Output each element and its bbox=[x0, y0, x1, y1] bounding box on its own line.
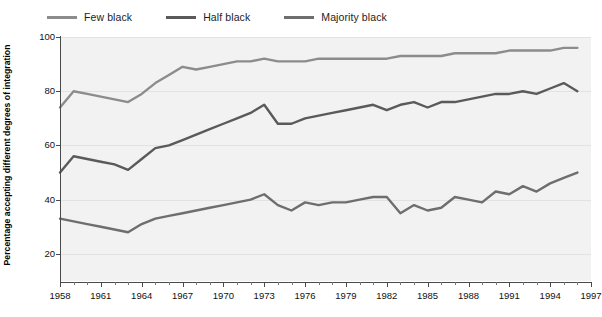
x-axis-tick-mark bbox=[591, 282, 592, 287]
x-axis-tick-label: 1967 bbox=[172, 290, 193, 301]
x-axis-tick-mark bbox=[183, 282, 184, 287]
y-axis-tick-label: 20 bbox=[30, 248, 55, 259]
x-axis-tick-label: 1988 bbox=[458, 290, 479, 301]
y-axis-title-text: Percentage accepting different degrees o… bbox=[2, 45, 12, 266]
y-axis-tick-mark bbox=[56, 145, 60, 146]
x-axis-minor-tick-mark bbox=[564, 282, 565, 285]
y-axis-tick-label: 60 bbox=[30, 139, 55, 150]
x-axis-minor-tick-mark bbox=[577, 282, 578, 285]
x-axis-tick-mark bbox=[509, 282, 510, 287]
x-axis-minor-tick-mark bbox=[523, 282, 524, 285]
x-axis-minor-tick-mark bbox=[537, 282, 538, 285]
x-axis-tick-label: 1991 bbox=[499, 290, 520, 301]
plot-area bbox=[60, 37, 591, 281]
x-axis-minor-tick-mark bbox=[319, 282, 320, 285]
x-axis-tick-mark bbox=[264, 282, 265, 287]
series-line bbox=[60, 173, 577, 233]
y-axis-tick-mark bbox=[56, 254, 60, 255]
y-axis-title: Percentage accepting different degrees o… bbox=[0, 30, 14, 280]
x-axis-minor-tick-mark bbox=[373, 282, 374, 285]
x-axis-line bbox=[60, 282, 592, 283]
x-axis-minor-tick-mark bbox=[400, 282, 401, 285]
x-axis-minor-tick-mark bbox=[482, 282, 483, 285]
x-axis-tick-mark bbox=[346, 282, 347, 287]
legend-item-half-black: Half black bbox=[166, 11, 250, 23]
x-axis-tick-label: 1970 bbox=[213, 290, 234, 301]
x-axis-minor-tick-mark bbox=[455, 282, 456, 285]
x-axis-tick-mark bbox=[223, 282, 224, 287]
series-line bbox=[60, 48, 577, 108]
x-axis-tick-label: 1994 bbox=[540, 290, 561, 301]
x-axis-minor-tick-mark bbox=[292, 282, 293, 285]
y-axis-tick-mark bbox=[56, 91, 60, 92]
x-axis-minor-tick-mark bbox=[278, 282, 279, 285]
x-axis-tick-mark bbox=[142, 282, 143, 287]
x-axis-minor-tick-mark bbox=[237, 282, 238, 285]
x-axis-minor-tick-mark bbox=[360, 282, 361, 285]
x-axis-minor-tick-mark bbox=[414, 282, 415, 285]
x-axis-minor-tick-mark bbox=[74, 282, 75, 285]
legend-swatch-icon bbox=[284, 16, 314, 19]
series-lines bbox=[60, 37, 591, 281]
x-axis-minor-tick-mark bbox=[196, 282, 197, 285]
x-axis-tick-label: 1958 bbox=[49, 290, 70, 301]
x-axis-tick-mark bbox=[60, 282, 61, 287]
legend-swatch-icon bbox=[47, 16, 77, 19]
x-axis-tick-mark bbox=[469, 282, 470, 287]
legend-item-few-black: Few black bbox=[47, 11, 132, 23]
legend-label: Few black bbox=[84, 11, 132, 23]
x-axis-tick-mark bbox=[305, 282, 306, 287]
x-axis-tick-label: 1985 bbox=[417, 290, 438, 301]
y-axis-tick-label: 100 bbox=[30, 31, 55, 42]
x-axis-tick-label: 1976 bbox=[295, 290, 316, 301]
x-axis-tick-label: 1979 bbox=[335, 290, 356, 301]
x-axis-minor-tick-mark bbox=[251, 282, 252, 285]
x-axis-minor-tick-mark bbox=[87, 282, 88, 285]
x-axis-minor-tick-mark bbox=[496, 282, 497, 285]
chart-legend: Few black Half black Majority black bbox=[47, 11, 421, 23]
x-axis-minor-tick-mark bbox=[210, 282, 211, 285]
y-axis-tick-mark bbox=[56, 200, 60, 201]
x-axis-tick-mark bbox=[101, 282, 102, 287]
x-axis-minor-tick-mark bbox=[169, 282, 170, 285]
x-axis-tick-mark bbox=[428, 282, 429, 287]
x-axis-tick-mark bbox=[387, 282, 388, 287]
x-axis-tick-mark bbox=[550, 282, 551, 287]
y-axis-line bbox=[60, 36, 61, 282]
x-axis-tick-label: 1961 bbox=[90, 290, 111, 301]
y-axis-tick-mark bbox=[56, 37, 60, 38]
y-axis-tick-label: 40 bbox=[30, 194, 55, 205]
x-axis-minor-tick-mark bbox=[441, 282, 442, 285]
legend-label: Majority black bbox=[321, 11, 387, 23]
x-axis-tick-label: 1973 bbox=[254, 290, 275, 301]
legend-label: Half black bbox=[203, 11, 250, 23]
x-axis-tick-label: 1982 bbox=[376, 290, 397, 301]
x-axis-minor-tick-mark bbox=[155, 282, 156, 285]
x-axis-minor-tick-mark bbox=[115, 282, 116, 285]
y-axis-tick-label: 80 bbox=[30, 85, 55, 96]
x-axis-minor-tick-mark bbox=[332, 282, 333, 285]
legend-swatch-icon bbox=[166, 16, 196, 19]
legend-item-majority-black: Majority black bbox=[284, 11, 387, 23]
x-axis-tick-label: 1997 bbox=[580, 290, 601, 301]
x-axis-minor-tick-mark bbox=[128, 282, 129, 285]
x-axis-tick-label: 1964 bbox=[131, 290, 152, 301]
